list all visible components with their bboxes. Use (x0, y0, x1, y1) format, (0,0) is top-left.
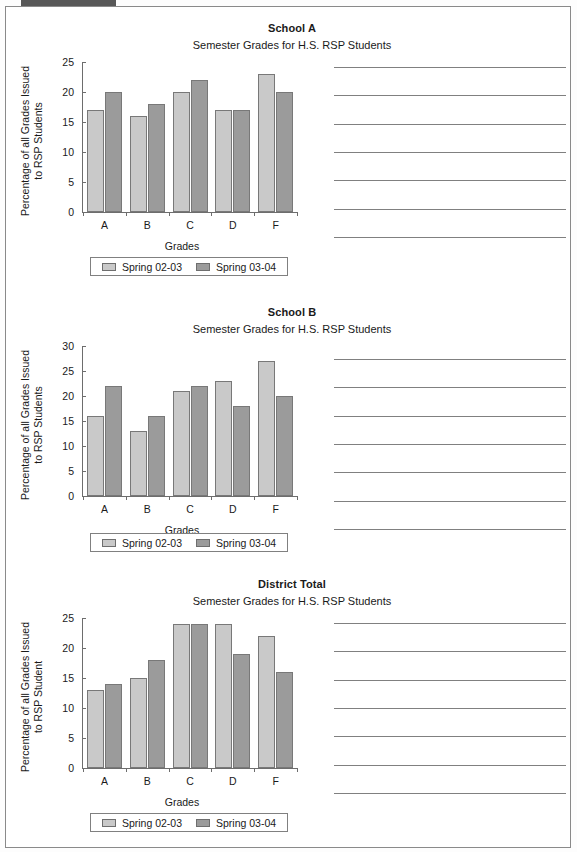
bar[interactable] (233, 406, 250, 496)
chart-block-district-total: District Total Semester Grades for H.S. … (6, 567, 572, 851)
bar-group (254, 618, 297, 768)
x-axis-line (82, 212, 297, 213)
x-tick-label: D (218, 503, 248, 515)
note-rule-line (334, 623, 566, 624)
y-tick-label: 0 (68, 207, 74, 217)
legend-label: Spring 03-04 (216, 817, 276, 829)
bar[interactable] (173, 92, 190, 212)
legend-entry-spring-03-04: Spring 03-04 (196, 817, 276, 829)
x-axis-line (82, 768, 297, 769)
bar[interactable] (191, 386, 208, 496)
note-rule-line (334, 472, 566, 473)
bar[interactable] (215, 624, 232, 768)
legend-entry-spring-03-04: Spring 03-04 (196, 261, 276, 273)
x-tick-mark (211, 212, 212, 216)
x-tick-mark (297, 212, 298, 216)
page-frame: School A Semester Grades for H.S. RSP St… (5, 6, 571, 848)
bar[interactable] (233, 654, 250, 768)
y-axis-ticks: 0510152025 (52, 618, 78, 768)
legend-entry-spring-03-04: Spring 03-04 (196, 537, 276, 549)
bar[interactable] (276, 396, 293, 496)
chart-block-school-a: School A Semester Grades for H.S. RSP St… (6, 11, 572, 295)
bar[interactable] (130, 678, 147, 768)
legend-entry-spring-02-03: Spring 02-03 (102, 261, 182, 273)
bar[interactable] (130, 431, 147, 496)
chart-subtitle: Semester Grades for H.S. RSP Students (12, 319, 572, 336)
bar-group (83, 62, 126, 212)
note-rule-line (334, 95, 566, 96)
bar-group (126, 62, 169, 212)
y-axis-label-line2: to RSP Student (32, 621, 45, 771)
note-rule-line (334, 359, 566, 360)
axis-area: 0510152025 ABCDF (52, 618, 312, 778)
x-tick-label: C (175, 775, 205, 787)
x-tick-mark (211, 768, 212, 772)
bar[interactable] (173, 624, 190, 768)
bar[interactable] (87, 416, 104, 496)
x-tick-label: F (261, 775, 291, 787)
x-tick-label: A (89, 775, 119, 787)
x-tick-label: D (218, 775, 248, 787)
bar[interactable] (105, 92, 122, 212)
bar-group-end (297, 62, 298, 212)
bar[interactable] (215, 381, 232, 496)
y-axis-label: Percentage of all Grades Issued to RSP S… (22, 58, 42, 223)
x-tick-mark (254, 496, 255, 500)
chart-title: District Total (12, 567, 572, 591)
legend-label: Spring 02-03 (122, 537, 182, 549)
x-tick-label: F (261, 503, 291, 515)
chart-subtitle: Semester Grades for H.S. RSP Students (12, 591, 572, 608)
y-tick-label: 25 (62, 366, 74, 376)
bar[interactable] (276, 672, 293, 768)
bar[interactable] (105, 684, 122, 768)
note-rule-line (334, 416, 566, 417)
x-tick-mark (254, 768, 255, 772)
y-tick-label: 20 (62, 391, 74, 401)
bar[interactable] (258, 361, 275, 496)
bar[interactable] (105, 386, 122, 496)
x-tick-mark (83, 768, 84, 772)
bar[interactable] (258, 636, 275, 768)
y-tick-label: 15 (62, 416, 74, 426)
bar[interactable] (87, 110, 104, 212)
y-tick-label: 5 (68, 177, 74, 187)
bar[interactable] (130, 116, 147, 212)
x-axis-line (82, 496, 297, 497)
legend-swatch-icon (196, 539, 210, 547)
legend-swatch-icon (196, 263, 210, 271)
y-tick-label: 0 (68, 491, 74, 501)
x-tick-label: B (132, 775, 162, 787)
bar[interactable] (148, 660, 165, 768)
note-rule-line (334, 209, 566, 210)
bar[interactable] (233, 110, 250, 212)
note-rule-line (334, 444, 566, 445)
bar[interactable] (173, 391, 190, 496)
legend-swatch-icon (102, 819, 116, 827)
notes-lines-section-3 (334, 623, 566, 793)
chart-title: School A (12, 11, 572, 35)
y-tick-label: 20 (62, 643, 74, 653)
x-tick-mark (254, 212, 255, 216)
bar[interactable] (191, 624, 208, 768)
bar[interactable] (148, 104, 165, 212)
note-rule-line (334, 708, 566, 709)
bar-group (169, 62, 212, 212)
x-tick-label: C (175, 503, 205, 515)
legend-entry-spring-02-03: Spring 02-03 (102, 817, 182, 829)
plot-area: ABCDF (83, 62, 297, 212)
chart-titles: District Total Semester Grades for H.S. … (6, 567, 572, 608)
bar[interactable] (258, 74, 275, 212)
bar[interactable] (148, 416, 165, 496)
y-axis-label-line1: Percentage of all Grades Issued (19, 621, 32, 771)
bar[interactable] (191, 80, 208, 212)
notes-lines-section-2 (334, 359, 566, 529)
note-rule-line (334, 501, 566, 502)
bar[interactable] (276, 92, 293, 212)
y-tick-label: 5 (68, 733, 74, 743)
x-tick-label: C (175, 219, 205, 231)
legend-label: Spring 03-04 (216, 261, 276, 273)
bar[interactable] (87, 690, 104, 768)
x-tick-mark (169, 212, 170, 216)
y-tick-label: 5 (68, 466, 74, 476)
bar[interactable] (215, 110, 232, 212)
